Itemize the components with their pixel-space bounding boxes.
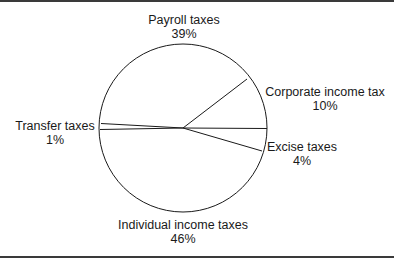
label-percent: 4% bbox=[262, 154, 342, 168]
label-percent: 46% bbox=[108, 232, 258, 246]
label-transfer-taxes: Transfer taxes 1% bbox=[12, 119, 98, 147]
label-name: Payroll taxes bbox=[134, 13, 234, 27]
label-name: Individual income taxes bbox=[108, 218, 258, 232]
label-payroll-taxes: Payroll taxes 39% bbox=[134, 13, 234, 41]
label-excise-taxes: Excise taxes 4% bbox=[262, 140, 342, 168]
label-name: Transfer taxes bbox=[12, 119, 98, 133]
label-percent: 39% bbox=[134, 27, 234, 41]
slice-boundary-corporate-excise bbox=[183, 128, 267, 129]
label-percent: 1% bbox=[12, 133, 98, 147]
label-name: Excise taxes bbox=[262, 140, 342, 154]
label-percent: 10% bbox=[256, 99, 394, 113]
label-name: Corporate income tax bbox=[256, 85, 394, 99]
label-individual-income-taxes: Individual income taxes 46% bbox=[108, 218, 258, 246]
bottom-rule bbox=[0, 256, 394, 258]
label-corporate-income-tax: Corporate income tax 10% bbox=[256, 85, 394, 113]
